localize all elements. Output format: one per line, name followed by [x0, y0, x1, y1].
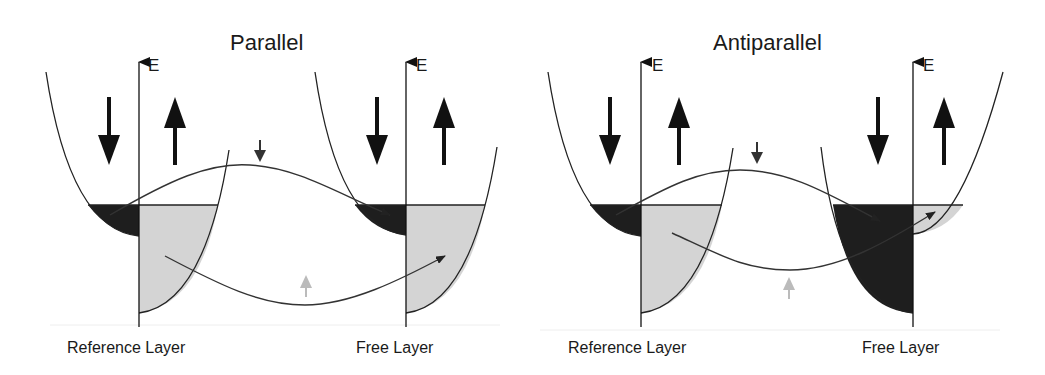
free-majority-fill	[913, 205, 963, 234]
energy-axis-label: E	[923, 56, 934, 76]
parallel-panel	[46, 62, 500, 327]
spin-down-arrow	[98, 97, 120, 165]
small-spin-up-arrow	[783, 277, 795, 299]
free-majority-fill	[406, 205, 485, 313]
panel-title-parallel: Parallel	[230, 30, 303, 56]
ref-minority-fill	[88, 205, 139, 236]
spin-up-arrow	[164, 97, 186, 165]
small-spin-down-arrow	[254, 140, 266, 162]
spin-down-arrow	[867, 97, 889, 165]
free-layer-label: Free Layer	[356, 339, 433, 357]
spin-down-arrow	[366, 97, 388, 165]
reference-layer-label: Reference Layer	[67, 339, 185, 357]
small-spin-up-arrow	[300, 275, 312, 297]
spin-up-arrow	[668, 97, 690, 165]
energy-axis-label: E	[148, 56, 159, 76]
panel-title-antiparallel: Antiparallel	[713, 30, 822, 56]
ref-majority-fill	[139, 205, 218, 313]
small-spin-down-arrow	[751, 142, 763, 164]
reference-layer-label: Reference Layer	[568, 339, 686, 357]
spin-up-arrow	[933, 97, 955, 165]
free-layer-label: Free Layer	[862, 339, 939, 357]
spin-up-arrow	[433, 97, 455, 165]
energy-axis-label: E	[652, 56, 663, 76]
energy-axis-label: E	[416, 56, 427, 76]
ref-minority-fill	[590, 205, 641, 236]
antiparallel-panel	[540, 62, 1003, 330]
ref-majority-fill	[641, 205, 722, 313]
spin-down-arrow	[599, 97, 621, 165]
